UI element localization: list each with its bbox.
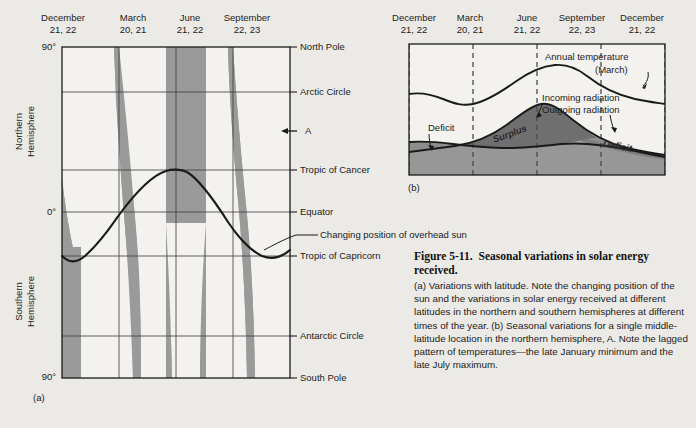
caption-figure-number: Figure 5-11. xyxy=(414,250,473,262)
latitude-label-arctic-circle: Arctic Circle xyxy=(300,86,351,97)
label-outgoing-radiation: Outgoing radiation xyxy=(542,104,620,116)
figure-caption: Figure 5-11.Seasonal variations in solar… xyxy=(414,250,690,371)
panel-b-radiation-chart: December 21, 22 March 20, 21 June 21, 22… xyxy=(395,0,696,220)
label-annual-temperature-month: (March) xyxy=(595,64,628,76)
daylight-band-june-block xyxy=(166,47,206,223)
annotation-changing-position-of-overhead-sun: Changing position of overhead sun xyxy=(320,229,467,240)
latitude-label-equator: Equator xyxy=(300,206,333,217)
label-annual-temperature: Annual temperature xyxy=(545,51,628,63)
latitude-label-a: A xyxy=(305,125,311,136)
label-deficit-left: Deficit xyxy=(428,122,454,133)
latitude-label-north-pole: North Pole xyxy=(300,41,345,52)
figure-5-11: December 21, 22 March 20, 21 June 21, 22… xyxy=(0,0,696,428)
latitude-label-south-pole: South Pole xyxy=(300,372,346,383)
panel-a-plot xyxy=(0,0,400,428)
caption-title: Figure 5-11.Seasonal variations in solar… xyxy=(414,250,690,277)
panel-a-tag: (a) xyxy=(33,392,45,403)
panel-b-tag: (b) xyxy=(408,182,420,193)
label-incoming-radiation: Incoming radiation xyxy=(542,92,620,104)
latitude-label-antarctic-circle: Antarctic Circle xyxy=(300,330,364,341)
latitude-label-tropic-capricorn: Tropic of Capricorn xyxy=(300,250,380,261)
panel-a-latitude-chart: December 21, 22 March 20, 21 June 21, 22… xyxy=(0,0,400,428)
latitude-label-tropic-cancer: Tropic of Cancer xyxy=(300,164,370,175)
caption-body-text: (a) Variations with latitude. Note the c… xyxy=(414,279,690,371)
daylight-band-december-block xyxy=(62,247,81,378)
